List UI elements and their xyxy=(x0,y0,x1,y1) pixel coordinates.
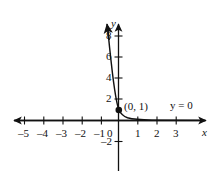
y-tick-label-4: 4 xyxy=(106,72,112,83)
x-tick-label-1: 1 xyxy=(135,128,141,139)
x-tick-label-neg3: –3 xyxy=(56,128,67,139)
point-marker-0-1 xyxy=(116,107,123,114)
x-tick-label-neg2: –2 xyxy=(75,128,86,139)
x-tick-label-neg5: –5 xyxy=(18,128,29,139)
x-axis-name: x xyxy=(202,127,207,138)
exponential-decay-graph-figure: –5 –4 –3 –2 –1 0 1 2 3 8 6 4 2 –2 y x (0… xyxy=(0,0,220,171)
x-tick-label-3: 3 xyxy=(173,128,179,139)
y-tick-label-2: 2 xyxy=(106,93,112,104)
y-tick-label-neg2: –2 xyxy=(101,136,112,147)
asymptote-label: y = 0 xyxy=(170,100,193,111)
y-tick-label-8: 8 xyxy=(106,30,112,41)
y-tick-label-6: 6 xyxy=(106,51,112,62)
x-tick-label-neg4: –4 xyxy=(37,128,48,139)
y-axis-name: y xyxy=(111,18,116,29)
x-tick-label-2: 2 xyxy=(154,128,160,139)
point-label-0-1: (0, 1) xyxy=(124,101,148,112)
